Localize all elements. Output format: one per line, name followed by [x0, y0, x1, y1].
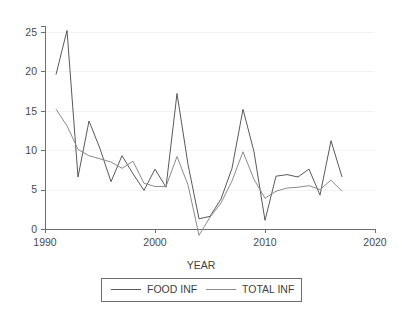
y-axis-tick-labels: 0510152025: [25, 26, 37, 235]
legend-label-food-inf[interactable]: FOOD INF: [147, 283, 197, 295]
y-tick-label-10: 10: [25, 144, 37, 156]
x-tick-label-2000: 2000: [143, 236, 167, 248]
gridlines: [46, 33, 375, 230]
chart-container: 0510152025 1990200020102020 YEAR FOOD IN…: [0, 0, 402, 316]
x-tick-label-2020: 2020: [363, 236, 387, 248]
x-tick-label-1990: 1990: [33, 236, 57, 248]
x-axis-title: YEAR: [187, 259, 216, 271]
y-tick-label-20: 20: [25, 65, 37, 77]
series-line-food-inf: [56, 30, 342, 220]
y-tick-label-0: 0: [31, 223, 37, 235]
data-series-group: [56, 30, 342, 235]
y-tick-label-25: 25: [25, 26, 37, 38]
chart-legend[interactable]: FOOD INFTOTAL INF: [102, 279, 302, 302]
line-chart: 0510152025 1990200020102020 YEAR FOOD IN…: [0, 0, 402, 316]
y-tick-label-5: 5: [31, 183, 37, 195]
y-tick-label-15: 15: [25, 105, 37, 117]
x-tick-label-2010: 2010: [253, 236, 277, 248]
axes: [41, 26, 376, 233]
x-axis-tick-labels: 1990200020102020: [33, 236, 387, 248]
legend-label-total-inf[interactable]: TOTAL INF: [242, 283, 294, 295]
